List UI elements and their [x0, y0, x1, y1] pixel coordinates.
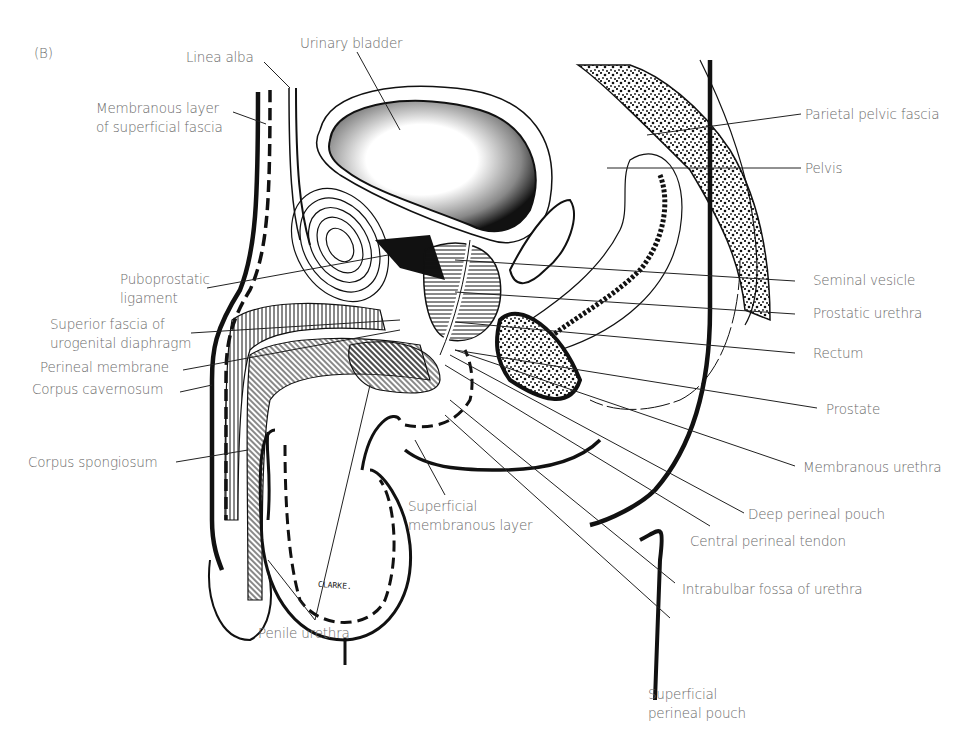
label-central-perineal-tendon: Central perineal tendon: [690, 532, 846, 551]
label-membranous-layer-superficial-fascia: Membranous layer of superficial fascia: [96, 99, 223, 137]
label-puboprostatic-ligament: Puboprostatic ligament: [120, 270, 210, 308]
label-linea-alba: Linea alba: [186, 48, 254, 67]
label-prostate: Prostate: [826, 400, 880, 419]
label-parietal-pelvic-fascia: Parietal pelvic fascia: [805, 105, 939, 124]
label-membranous-urethra: Membranous urethra: [803, 458, 941, 477]
label-perineal-membrane: Perineal membrane: [40, 358, 169, 377]
label-penile-urethra: Penile urethra: [258, 624, 350, 643]
label-rectum: Rectum: [813, 344, 863, 363]
label-superficial-perineal-pouch: Superficial perineal pouch: [648, 685, 746, 723]
label-pelvis: Pelvis: [805, 159, 842, 178]
anatomy-figure: (B) Linea alba Urinary bladder Membranou…: [0, 0, 979, 747]
label-seminal-vesicle: Seminal vesicle: [813, 271, 915, 290]
label-urinary-bladder: Urinary bladder: [300, 34, 402, 53]
label-prostatic-urethra: Prostatic urethra: [813, 304, 922, 323]
label-intrabulbar-fossa-urethra: Intrabulbar fossa of urethra: [682, 580, 862, 599]
label-corpus-cavernosum: Corpus cavernosum: [32, 380, 163, 399]
label-superficial-membranous-layer: Superficial membranous layer: [408, 497, 532, 535]
label-corpus-spongiosum: Corpus spongiosum: [28, 453, 158, 472]
panel-label: (B): [34, 44, 53, 63]
label-deep-perineal-pouch: Deep perineal pouch: [748, 505, 885, 524]
label-superior-fascia-urogenital-diaphragm: Superior fascia of urogenital diaphragm: [50, 315, 191, 353]
